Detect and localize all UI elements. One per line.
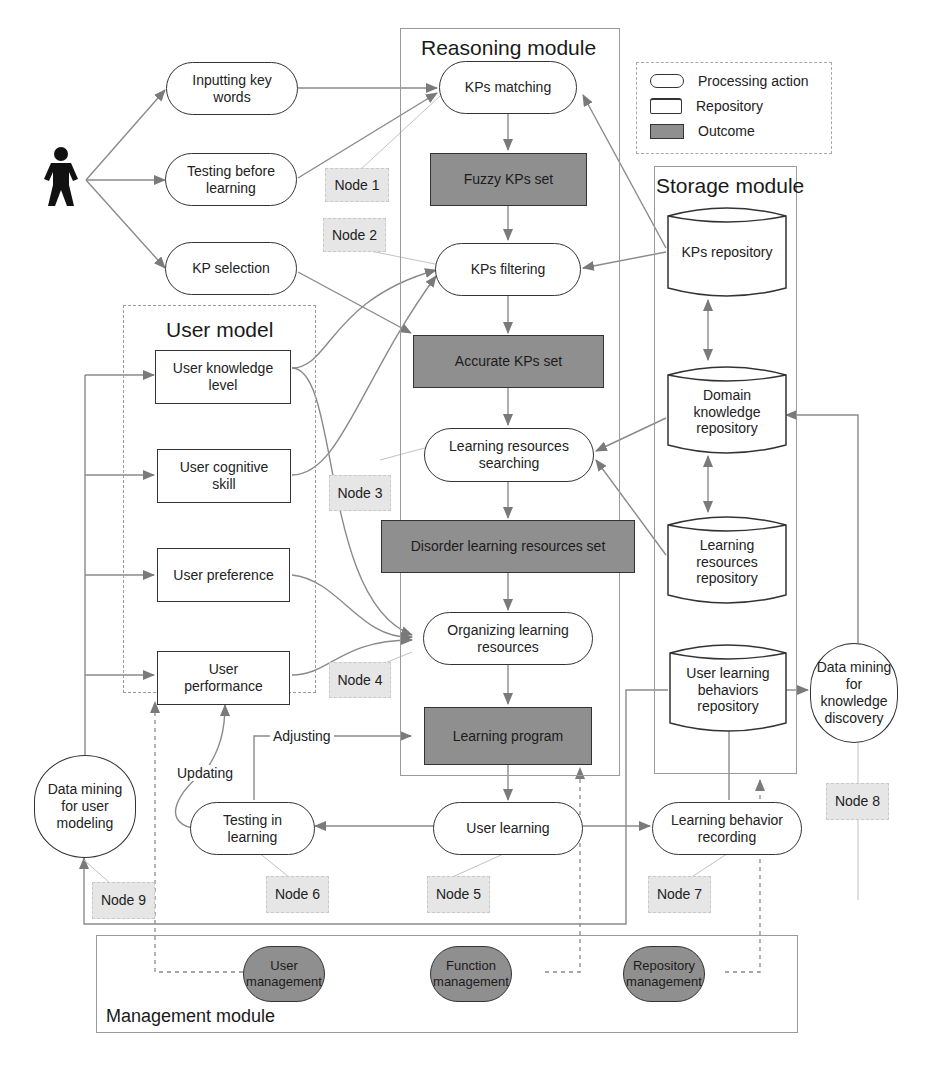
user-model-title: User model [166,318,273,342]
data-mining-user-modeling-action[interactable]: Data mining for user modeling [34,755,136,858]
cylinder-icon [650,98,682,114]
node-tag-7: Node 7 [648,876,711,913]
updating-label: Updating [174,765,236,781]
user-preference-box[interactable]: User preference [157,548,290,602]
organizing-learning-resources-action[interactable]: Organizing learning resources [423,612,593,665]
testing-in-learning-action[interactable]: Testing in learning [190,802,315,855]
learning-behavior-recording-action[interactable]: Learning behavior recording [652,802,802,855]
person-icon [40,145,82,211]
data-mining-knowledge-discovery-action[interactable]: Data mining for knowledge discovery [810,643,898,743]
node-tag-5: Node 5 [427,876,490,913]
fuzzy-kps-set-outcome[interactable]: Fuzzy KPs set [430,153,587,206]
legend-item-processing: Processing action [650,73,809,89]
legend: Processing action Repository Outcome [636,62,832,154]
reasoning-module-title: Reasoning module [421,36,596,60]
learning-resources-searching-action[interactable]: Learning resources searching [424,428,594,482]
node-tag-8: Node 8 [826,783,889,820]
repository-management-button[interactable]: Repository management [623,946,705,1002]
kps-repository-label: KPs repository [666,226,788,278]
user-learning-action[interactable]: User learning [433,802,583,855]
user-performance-box[interactable]: User performance [157,651,290,705]
node-tag-1: Node 1 [325,168,389,202]
node-tag-2: Node 2 [323,218,386,252]
user-knowledge-level-box[interactable]: User knowledge level [155,350,291,404]
kps-matching-action[interactable]: KPs matching [439,61,577,114]
kps-filtering-action[interactable]: KPs filtering [435,243,581,296]
learning-resources-repository-label: Learning resources repository [680,528,774,596]
learning-program-outcome[interactable]: Learning program [424,707,592,765]
filled-rect-icon [650,124,684,139]
storage-module-title: Storage module [656,174,804,198]
disorder-learning-resources-set-outcome[interactable]: Disorder learning resources set [381,520,635,573]
legend-item-outcome: Outcome [650,123,755,139]
accurate-kps-set-outcome[interactable]: Accurate KPs set [413,335,604,388]
adjusting-label: Adjusting [270,728,334,744]
node-tag-3: Node 3 [329,475,391,511]
legend-item-repository: Repository [650,98,763,114]
domain-knowledge-repository-label: Domain knowledge repository [676,378,778,446]
user-management-button[interactable]: User management [243,946,325,1002]
inputting-key-words-action[interactable]: Inputting key words [166,62,298,115]
node-tag-9: Node 9 [92,882,155,919]
node-tag-6: Node 6 [266,876,329,913]
rounded-rect-icon [650,74,684,88]
user-learning-behaviors-repository-label: User learning behaviors repository [678,656,778,724]
management-module-title: Management module [106,1006,275,1027]
node-tag-4: Node 4 [329,662,391,698]
kp-selection-action[interactable]: KP selection [165,242,297,295]
testing-before-learning-action[interactable]: Testing before learning [165,153,297,206]
user-cognitive-skill-box[interactable]: User cognitive skill [157,449,291,503]
function-management-button[interactable]: Function management [430,946,512,1002]
